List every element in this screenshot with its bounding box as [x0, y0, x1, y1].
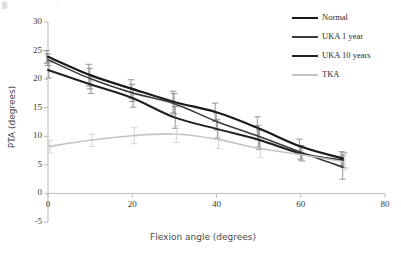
- x-tick-label: 40: [207, 199, 227, 209]
- x-tick-label: 60: [291, 199, 311, 209]
- y-tick-label: 20: [18, 73, 42, 83]
- data-series-layer: [43, 51, 348, 180]
- error-bars-normal: [43, 51, 344, 166]
- x-tick-label: 20: [122, 199, 142, 209]
- y-tick-label: 30: [18, 16, 42, 26]
- legend-label-tka: TKA: [322, 69, 339, 79]
- y-tick-label: 15: [18, 102, 42, 112]
- scan-artifact-left: ▓: [2, 1, 7, 9]
- error-bars-uka-1-year: [45, 54, 346, 179]
- y-tick-label: -5: [18, 216, 42, 226]
- x-tick-label: 80: [375, 199, 395, 209]
- y-tick-label: 10: [18, 130, 42, 140]
- y-axis-title: PTA (degrees): [7, 77, 17, 157]
- x-axis-title: Flexion angle (degrees): [150, 232, 256, 242]
- y-tick-label: 25: [18, 45, 42, 55]
- legend-swatch-uka-10-years: [292, 55, 318, 57]
- y-tick-label: 5: [18, 159, 42, 169]
- legend-label-uka-10-years: UKA 10 years: [322, 50, 371, 60]
- scan-artifact-right: ‧: [56, 0, 58, 8]
- legend-label-normal: Normal: [322, 12, 348, 22]
- legend-label-uka-1-year: UKA 1 year: [322, 31, 363, 41]
- y-tick-label: 0: [18, 187, 42, 197]
- legend-swatch-uka-1-year: [292, 36, 318, 38]
- legend-swatch-normal: [292, 17, 318, 19]
- x-tick-label: 0: [38, 199, 58, 209]
- legend-swatch-tka: [292, 74, 318, 76]
